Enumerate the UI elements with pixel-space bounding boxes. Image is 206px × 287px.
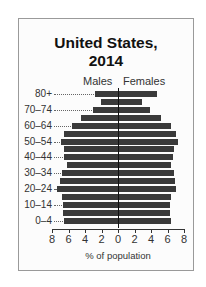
title-line-2: 2014 (18, 52, 194, 70)
bar-male (62, 194, 118, 200)
bar-male (101, 99, 118, 105)
x-tick-label: 4 (79, 233, 91, 245)
age-label: 10–14 (22, 200, 52, 210)
age-label: 30–34 (22, 168, 52, 178)
x-tick-label: 0 (112, 233, 124, 245)
age-label: 80+ (22, 89, 52, 99)
age-label: 50–54 (22, 137, 52, 147)
bar-male (67, 162, 118, 168)
x-tick-label: 8 (46, 233, 58, 245)
bar-male (64, 218, 118, 224)
bar-female (119, 107, 150, 113)
bar-female (119, 186, 176, 192)
bar-male (64, 154, 118, 160)
bar-female (119, 139, 178, 145)
bar-male (61, 139, 118, 145)
bar-female (119, 162, 171, 168)
bar-male (64, 131, 118, 137)
age-label: 20–24 (22, 184, 52, 194)
bar-male (95, 91, 118, 97)
legend-females: Females (123, 75, 165, 87)
bar-male (57, 186, 118, 192)
bar-female (119, 210, 170, 216)
bar-female (119, 146, 174, 152)
bar-female (119, 91, 157, 97)
leader-line (54, 189, 56, 190)
bar-female (119, 202, 170, 208)
bar-female (119, 170, 174, 176)
x-tick-label: 2 (96, 233, 108, 245)
bar-female (119, 218, 171, 224)
x-tick-label: 2 (129, 233, 141, 245)
chart-title: United States, 2014 (18, 34, 194, 70)
age-label: 0–4 (22, 216, 52, 226)
x-axis-label: % of population (0, 250, 206, 261)
leader-line (54, 110, 92, 111)
bar-male (64, 146, 118, 152)
age-label: 60–64 (22, 121, 52, 131)
bar-female (119, 123, 171, 129)
leader-line (54, 142, 60, 143)
bar-male (72, 123, 118, 129)
bar-female (119, 194, 171, 200)
bar-female (119, 115, 161, 121)
leader-line (54, 173, 61, 174)
age-label: 40–44 (22, 152, 52, 162)
leader-line (54, 94, 94, 95)
bar-male (60, 178, 118, 184)
bar-male (63, 202, 118, 208)
bar-female (119, 178, 175, 184)
bar-male (93, 107, 118, 113)
leader-line (54, 126, 71, 127)
leader-line (54, 221, 63, 222)
title-line-1: United States, (18, 34, 194, 52)
bar-male (63, 210, 118, 216)
bar-female (119, 154, 173, 160)
bar-female (119, 99, 142, 105)
bar-male (62, 170, 118, 176)
age-label: 70–74 (22, 105, 52, 115)
x-tick-label: 8 (178, 233, 190, 245)
leader-line (54, 205, 62, 206)
x-tick-label: 6 (63, 233, 75, 245)
legend-males: Males (83, 75, 112, 87)
x-tick-label: 4 (145, 233, 157, 245)
bar-male (81, 115, 118, 121)
bar-female (119, 131, 176, 137)
leader-line (54, 157, 63, 158)
x-tick-label: 6 (162, 233, 174, 245)
